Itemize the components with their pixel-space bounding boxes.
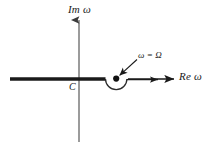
pole-callout-leader-line [120, 60, 137, 76]
contour-c [10, 79, 158, 90]
complex-plane-contour-figure: Im ω Re ω C ω = Ω [0, 0, 213, 148]
pole-callout-leader [120, 60, 137, 76]
contour-label: C [69, 82, 76, 92]
imaginary-axis-label: Im ω [68, 4, 91, 15]
pole-marker-group [113, 76, 119, 82]
real-axis-label: Re ω [179, 71, 202, 82]
pole-dot [113, 76, 119, 82]
pole-label: ω = Ω [138, 51, 162, 60]
